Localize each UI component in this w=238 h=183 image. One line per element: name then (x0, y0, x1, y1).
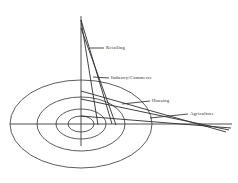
axes (10, 16, 232, 146)
curve-labels: Retailing Industry/Commerce Housing Agri… (106, 45, 214, 116)
leader-industry-commerce (93, 77, 109, 78)
label-industry-commerce: Industry/Commerce (111, 75, 152, 80)
curve-agriculture (81, 116, 231, 128)
label-agriculture: Agriculture (190, 111, 214, 116)
label-retailing: Retailing (106, 45, 126, 50)
bid-rent-figure: Retailing Industry/Commerce Housing Agri… (0, 0, 238, 183)
bid-rent-diagram: Retailing Industry/Commerce Housing Agri… (0, 0, 238, 183)
leader-housing (122, 101, 150, 104)
label-housing: Housing (152, 98, 170, 103)
